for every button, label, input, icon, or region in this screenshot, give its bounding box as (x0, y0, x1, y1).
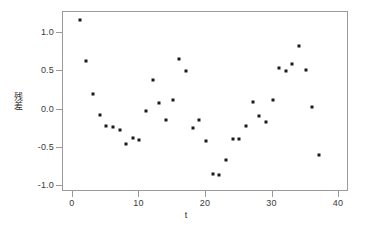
data-point (91, 93, 94, 96)
x-axis-tick-label: 20 (190, 199, 220, 208)
data-point (131, 136, 134, 139)
x-axis-tick (138, 191, 139, 197)
data-point (264, 120, 267, 123)
data-point (258, 114, 261, 117)
data-point (238, 138, 241, 141)
data-point (291, 62, 294, 65)
data-point (318, 154, 321, 157)
data-point (171, 98, 174, 101)
y-axis-tick-label: -0.5 (14, 142, 54, 151)
x-axis-tick-label: 10 (123, 199, 153, 208)
data-point (151, 78, 154, 81)
x-axis-tick (272, 191, 273, 197)
x-axis-label: t (0, 211, 372, 220)
x-axis-tick-label: 40 (323, 199, 353, 208)
data-point (165, 118, 168, 121)
data-point (205, 139, 208, 142)
y-axis-tick-label: 1.0 (14, 28, 54, 37)
data-point (278, 67, 281, 70)
data-point (271, 99, 274, 102)
x-axis-tick-label: 0 (57, 199, 87, 208)
data-point (178, 57, 181, 60)
data-point (284, 70, 287, 73)
y-axis-tick-label: 0.5 (14, 66, 54, 75)
x-axis-tick-label: 30 (257, 199, 287, 208)
data-point (111, 126, 114, 129)
data-point (105, 124, 108, 127)
scatter-points-layer (63, 12, 347, 190)
data-point (244, 125, 247, 128)
residual-scatter-figure: 残差 -1.0-0.50.00.51.0 010203040 t (0, 0, 372, 227)
data-point (198, 118, 201, 121)
x-axis-tick (338, 191, 339, 197)
data-point (191, 126, 194, 129)
y-axis-tick-label: -1.0 (14, 180, 54, 189)
data-point (145, 110, 148, 113)
data-point (158, 101, 161, 104)
data-point (311, 106, 314, 109)
data-point (304, 68, 307, 71)
data-point (224, 158, 227, 161)
data-point (125, 142, 128, 145)
x-axis-tick (205, 191, 206, 197)
data-point (78, 19, 81, 22)
data-point (231, 137, 234, 140)
data-point (185, 70, 188, 73)
x-axis-tick (72, 191, 73, 197)
data-point (138, 139, 141, 142)
data-point (85, 59, 88, 62)
y-axis-tick-label: 0.0 (14, 104, 54, 113)
plot-area (62, 11, 348, 191)
data-point (211, 172, 214, 175)
data-point (98, 113, 101, 116)
data-point (251, 101, 254, 104)
data-point (218, 174, 221, 177)
data-point (118, 129, 121, 132)
data-point (298, 45, 301, 48)
